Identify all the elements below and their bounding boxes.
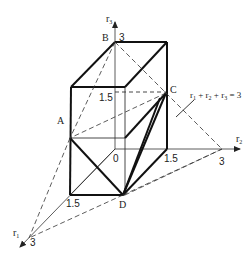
plane-indicator [176,100,194,117]
r1-axis-label: r1 [13,227,19,239]
r2-mid-value: 1.5 [164,153,178,164]
r1-end-value: 3 [30,237,36,248]
plane-equation: r1 + r2 + r3 = 3 [190,90,242,101]
r3-end-value: 3 [119,32,125,43]
r2-end-value: 3 [219,156,225,167]
point-d-label: D [119,199,126,210]
simplex-box-diagram: B C A D 0 3 1.5 1.5 3 1.5 3 r3 r2 r1 r1 … [0,0,250,254]
point-a-label: A [57,115,65,126]
r1-mid-value: 1.5 [66,198,80,209]
r3-axis-label: r3 [106,13,112,25]
point-c-label: C [170,84,177,95]
point-b-label: B [102,32,109,43]
r3-mid-value: 1.5 [99,92,113,103]
origin-label: 0 [113,153,119,164]
box-hidden-edges [70,87,166,195]
r2-axis-label: r2 [236,133,242,145]
